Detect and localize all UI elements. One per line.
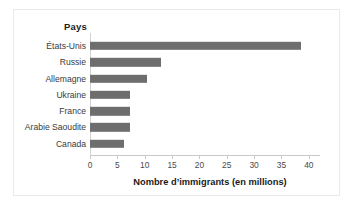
bar-row: Allemagne <box>0 71 354 87</box>
x-tick-mark <box>199 155 200 159</box>
x-tick-label: 10 <box>140 160 149 170</box>
bar <box>90 123 130 131</box>
x-tick-mark <box>254 155 255 159</box>
category-label: Allemagne <box>0 74 86 84</box>
x-axis-title: Nombre d’immigrants (en millions) <box>90 177 330 187</box>
x-tick-mark <box>90 155 91 159</box>
bar-row: Arabie Saoudite <box>0 120 354 136</box>
bar <box>90 58 161 66</box>
x-tick-label: 25 <box>222 160 231 170</box>
x-tick-mark <box>309 155 310 159</box>
x-tick-mark <box>145 155 146 159</box>
bar <box>90 91 130 99</box>
x-tick-label: 0 <box>88 160 93 170</box>
bar <box>90 42 301 50</box>
category-label: France <box>0 106 86 116</box>
category-axis-header: Pays <box>0 21 87 32</box>
x-tick-label: 20 <box>195 160 204 170</box>
category-label: Arabie Saoudite <box>0 122 86 132</box>
chart-figure: Pays États-UnisRussieAllemagneUkraineFra… <box>0 0 354 203</box>
x-tick-label: 15 <box>167 160 176 170</box>
x-tick-label: 30 <box>249 160 258 170</box>
category-label: États-Unis <box>0 41 86 51</box>
bar-row: Ukraine <box>0 87 354 103</box>
x-tick-mark <box>227 155 228 159</box>
plot-area: Pays États-UnisRussieAllemagneUkraineFra… <box>0 0 354 203</box>
bar <box>90 107 130 115</box>
x-tick-mark <box>281 155 282 159</box>
bar <box>90 74 147 82</box>
bar <box>90 140 124 148</box>
x-tick-label: 40 <box>304 160 313 170</box>
x-tick-label: 35 <box>277 160 286 170</box>
value-axis-line <box>90 155 320 156</box>
bar-row: États-Unis <box>0 38 354 54</box>
x-tick-mark <box>172 155 173 159</box>
bar-row: Russie <box>0 55 354 71</box>
category-label: Ukraine <box>0 90 86 100</box>
x-tick-mark <box>117 155 118 159</box>
category-label: Russie <box>0 57 86 67</box>
category-label: Canada <box>0 139 86 149</box>
bar-row: France <box>0 103 354 119</box>
x-tick-label: 5 <box>115 160 120 170</box>
bar-row: Canada <box>0 136 354 152</box>
